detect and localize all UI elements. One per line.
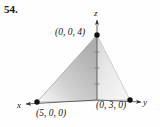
axis-label-x: x: [17, 101, 21, 110]
axis-label-y: y: [143, 98, 147, 107]
vertex-label-x: (5, 0, 0): [36, 109, 66, 119]
figure-container: 54. (0, 0, 4) (5, 0, 0) (0, 3, 0) z x y: [0, 0, 160, 127]
vertex-dot-z: [94, 32, 99, 37]
vertex-dot-y: [127, 97, 132, 102]
axis-label-z: z: [94, 9, 98, 18]
vertex-dot-x: [34, 99, 39, 104]
vertex-label-y: (0, 3, 0): [96, 101, 126, 111]
vertex-label-z: (0, 0, 4): [55, 28, 85, 38]
problem-number: 54.: [4, 4, 18, 15]
three-d-axes-diagram: [0, 0, 160, 127]
